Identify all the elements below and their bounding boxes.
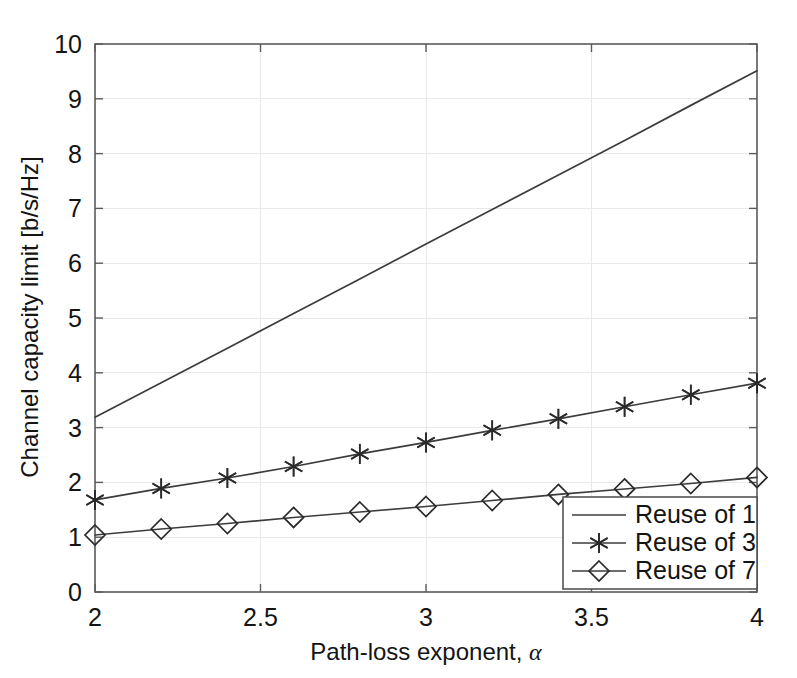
chart-legend: Reuse of 1Reuse of 3Reuse of 7 <box>563 497 757 589</box>
x-tick-label: 4 <box>750 603 764 631</box>
legend-label: Reuse of 1 <box>635 500 756 528</box>
y-tick-label: 5 <box>68 304 82 332</box>
alpha-symbol: α <box>529 639 542 665</box>
y-tick-label: 7 <box>68 194 82 222</box>
legend-label: Reuse of 7 <box>635 556 756 584</box>
legend-label: Reuse of 3 <box>635 528 756 556</box>
y-tick-label: 9 <box>68 85 82 113</box>
y-tick-label: 4 <box>68 359 82 387</box>
chart-figure: 012345678910 22.533.54 Reuse of 1Reuse o… <box>0 0 797 678</box>
x-axis-title: Path-loss exponent, α <box>310 638 542 665</box>
x-tick-label: 2.5 <box>243 603 278 631</box>
y-tick-label: 3 <box>68 414 82 442</box>
y-axis-title: Channel capacity limit [b/s/Hz] <box>16 156 43 477</box>
x-axis-title-text: Path-loss exponent, <box>310 638 529 665</box>
x-tick-label: 3 <box>419 603 433 631</box>
y-tick-label: 8 <box>68 140 82 168</box>
y-tick-label: 0 <box>68 578 82 606</box>
x-tick-label: 2 <box>88 603 102 631</box>
line-chart: 012345678910 22.533.54 Reuse of 1Reuse o… <box>0 0 797 678</box>
x-tick-label: 3.5 <box>574 603 609 631</box>
y-tick-label: 2 <box>68 468 82 496</box>
y-tick-label: 1 <box>68 523 82 551</box>
y-tick-label: 10 <box>54 30 82 58</box>
y-tick-label: 6 <box>68 249 82 277</box>
